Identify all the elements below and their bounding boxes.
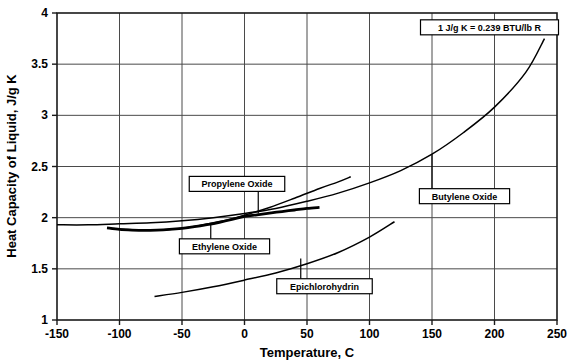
x-tick-label: 0 (241, 327, 248, 341)
heat-capacity-line-chart: -150-100-5005010015020025011.522.533.54 … (0, 0, 578, 363)
y-axis-title: Heat Capacity of Liquid, J/g K (4, 74, 19, 258)
x-tick-label: -100 (107, 327, 131, 341)
chart-figure: -150-100-5005010015020025011.522.533.54 … (0, 0, 578, 363)
x-tick-label: 100 (359, 327, 379, 341)
y-tick-label: 1 (41, 313, 48, 327)
x-tick-label: 250 (547, 327, 567, 341)
x-tick-label: 200 (484, 327, 504, 341)
series-label-text: Ethylene Oxide (192, 242, 257, 252)
unit-conversion-note-text: 1 J/g K = 0.239 BTU/lb R (438, 23, 541, 33)
y-tick-label: 3.5 (31, 57, 48, 71)
y-tick-label: 3 (41, 108, 48, 122)
x-axis-title: Temperature, C (260, 345, 355, 360)
x-tick-label: 50 (300, 327, 314, 341)
series-curve-propylene-oxide (107, 207, 320, 230)
chart-annotations: 1 J/g K = 0.239 BTU/lb R (421, 20, 559, 35)
series-label-text: Propylene Oxide (201, 179, 272, 189)
series-curves (57, 39, 545, 297)
x-tick-label: -50 (173, 327, 191, 341)
y-tick-label: 4 (41, 6, 48, 20)
x-tick-label: -150 (45, 327, 69, 341)
series-label-text: Butylene Oxide (432, 192, 498, 202)
series-callouts: Butylene OxidePropylene OxideEthylene Ox… (179, 154, 509, 294)
series-label-text: Epichlorohydrin (290, 282, 359, 292)
y-tick-label: 2 (41, 211, 48, 225)
x-tick-label: 150 (422, 327, 442, 341)
y-tick-label: 2.5 (31, 160, 48, 174)
y-tick-label: 1.5 (31, 262, 48, 276)
chart-grid (57, 13, 557, 320)
